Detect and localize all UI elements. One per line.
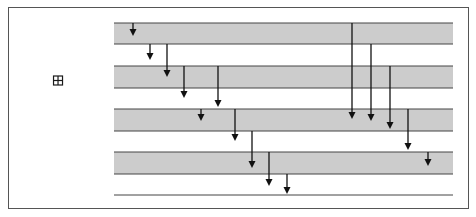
state-timeline-diagram: PlacedCheckedConfirmedDeniedAwaiting Del… <box>0 0 476 217</box>
transition-arrow <box>249 131 256 168</box>
state-band <box>114 66 453 88</box>
state-band <box>114 152 453 174</box>
arrowhead-icon <box>147 53 154 60</box>
arrowhead-icon <box>405 143 412 150</box>
expand-plus-box-icon[interactable] <box>54 76 63 85</box>
transition-arrow <box>284 174 291 194</box>
state-band <box>114 109 453 131</box>
transition-arrow <box>147 44 154 60</box>
arrowhead-icon <box>266 179 273 186</box>
transition-arrow <box>164 44 171 77</box>
state-label: Awaiting Delivery <box>0 0 1 2</box>
arrowhead-icon <box>181 91 188 98</box>
state-band <box>114 23 453 44</box>
arrowhead-icon <box>232 134 239 141</box>
arrowhead-icon <box>284 187 291 194</box>
arrowhead-icon <box>215 100 222 107</box>
